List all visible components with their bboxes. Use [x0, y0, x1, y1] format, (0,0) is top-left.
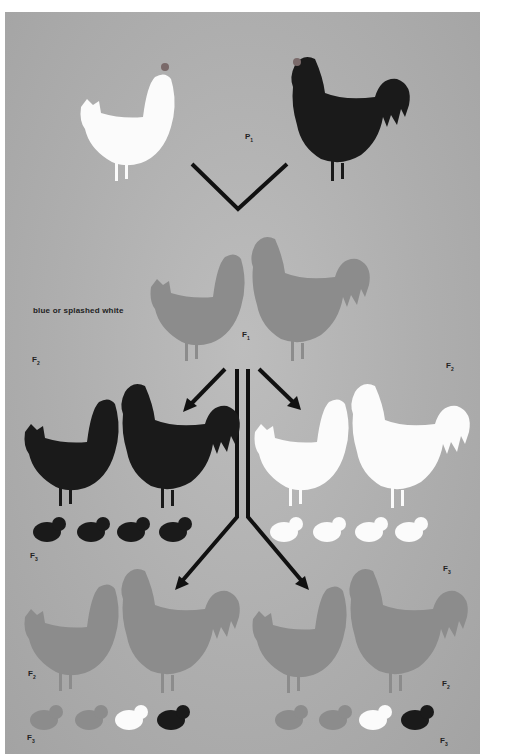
- label-p1: P1: [245, 132, 253, 143]
- label-f2-right-bottom: F2: [442, 679, 450, 690]
- label-f3-left-bottom: F3: [27, 733, 35, 744]
- comb-icon: [161, 63, 169, 71]
- label-f3-right-mid: F3: [443, 564, 451, 575]
- p1-black-rooster: [291, 57, 409, 181]
- mixed-chicks-left: [30, 705, 190, 730]
- f2-white-rooster: [351, 384, 469, 508]
- arrow-to-white: [259, 369, 293, 402]
- f2-blue-rooster-right: [349, 569, 467, 693]
- f2-black-hen: [25, 399, 119, 506]
- label-f3-right-bottom: F3: [440, 736, 448, 747]
- f2-white-hen: [255, 399, 349, 506]
- label-f2-left-top: F2: [32, 355, 40, 366]
- phenotype-caption: blue or splashed white: [33, 306, 124, 315]
- label-f1: F1: [242, 330, 250, 341]
- label-f3-left-mid: F3: [30, 551, 38, 562]
- comb-icon: [293, 58, 301, 66]
- f2-blue-hen-left: [25, 584, 119, 691]
- p1-white-hen: [81, 74, 175, 181]
- f1-blue-rooster: [251, 237, 369, 361]
- black-chicks: [33, 517, 192, 542]
- label-f2-right-top: F2: [446, 361, 454, 372]
- label-f2-left-bottom: F2: [28, 669, 36, 680]
- white-chicks: [270, 517, 428, 542]
- f2-blue-hen-right: [253, 586, 347, 693]
- f2-black-rooster: [121, 384, 239, 508]
- mixed-chicks-right: [275, 705, 434, 730]
- f1-blue-hen: [151, 254, 245, 361]
- inheritance-diagram: [5, 12, 480, 754]
- arrow-to-black: [191, 369, 225, 404]
- diagram-panel: blue or splashed white P1 F1 F2 F2 F3 F3…: [5, 12, 480, 754]
- cross-v-lines: [192, 164, 287, 209]
